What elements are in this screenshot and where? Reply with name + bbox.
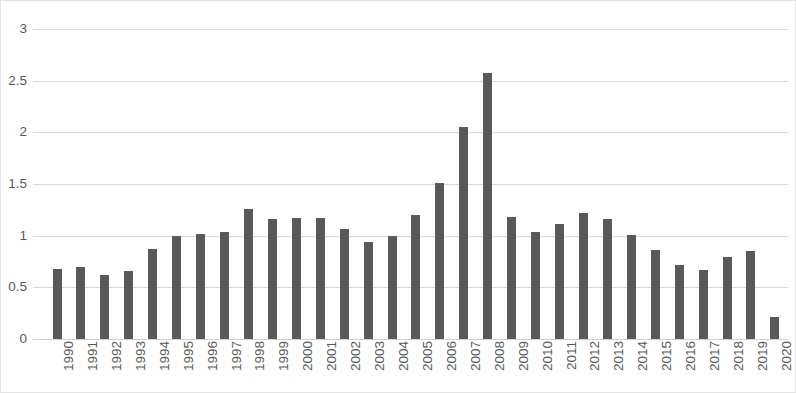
x-tick-label-2007: 2007: [469, 341, 483, 371]
bar-2013: [603, 219, 612, 339]
bar-2006: [435, 183, 444, 339]
x-tick-label-1991: 1991: [86, 341, 100, 371]
bar-2015: [651, 250, 660, 339]
x-tick-label-2016: 2016: [684, 341, 698, 371]
x-tick-label-1997: 1997: [230, 341, 244, 371]
bar-2008: [483, 73, 492, 339]
y-tick-label-0.5: 0.5: [8, 281, 27, 295]
x-tick-label-2001: 2001: [325, 341, 339, 371]
gridline-0: [33, 339, 788, 340]
bar-1992: [100, 275, 109, 339]
x-tick-label-2009: 2009: [517, 341, 531, 371]
bar-2018: [723, 257, 732, 339]
x-tick-label-2005: 2005: [421, 341, 435, 371]
bar-2016: [675, 265, 684, 339]
bar-1998: [244, 209, 253, 339]
x-tick-label-2011: 2011: [565, 341, 579, 370]
x-tick-label-2017: 2017: [708, 341, 722, 371]
bar-2005: [411, 215, 420, 339]
bar-2017: [699, 270, 708, 339]
y-tick-label-1: 1: [19, 229, 27, 243]
bar-1999: [268, 219, 277, 339]
bar-2001: [316, 218, 325, 339]
bar-2019: [746, 251, 755, 339]
bar-2014: [627, 235, 636, 339]
y-axis: 00.511.522.53: [1, 29, 27, 339]
x-tick-label-2012: 2012: [588, 341, 602, 371]
x-tick-label-1994: 1994: [158, 341, 172, 371]
bar-2020: [770, 317, 779, 339]
bar-chart-figure: 00.511.522.53 19901991199219931994199519…: [0, 0, 796, 393]
bar-1996: [196, 234, 205, 339]
x-tick-label-2003: 2003: [373, 341, 387, 371]
bar-series: [33, 29, 788, 339]
bar-2002: [340, 229, 349, 339]
x-tick-label-1995: 1995: [182, 341, 196, 371]
bar-2007: [459, 127, 468, 339]
bar-2011: [555, 224, 564, 339]
x-tick-label-1998: 1998: [253, 341, 267, 371]
y-tick-label-2.5: 2.5: [8, 74, 27, 88]
plot-area: [33, 29, 788, 339]
x-tick-label-2020: 2020: [780, 341, 794, 371]
x-tick-label-2015: 2015: [660, 341, 674, 371]
bar-1995: [172, 236, 181, 339]
x-tick-label-2013: 2013: [612, 341, 626, 371]
x-tick-label-2014: 2014: [636, 341, 650, 371]
y-tick-label-1.5: 1.5: [8, 177, 27, 191]
y-tick-label-0: 0: [19, 332, 27, 346]
x-tick-label-2004: 2004: [397, 341, 411, 371]
x-tick-label-2019: 2019: [756, 341, 770, 371]
x-tick-label-1996: 1996: [206, 341, 220, 371]
bar-2000: [292, 218, 301, 339]
x-tick-label-2018: 2018: [732, 341, 746, 371]
bar-1993: [124, 271, 133, 339]
bar-2012: [579, 213, 588, 339]
x-tick-label-2006: 2006: [445, 341, 459, 371]
y-tick-label-3: 3: [19, 22, 27, 36]
x-tick-label-2002: 2002: [349, 341, 363, 371]
x-tick-label-2000: 2000: [301, 341, 315, 371]
y-tick-label-2: 2: [19, 126, 27, 140]
bar-1991: [76, 267, 85, 339]
x-tick-label-2008: 2008: [493, 341, 507, 371]
bar-1997: [220, 232, 229, 339]
bar-1994: [148, 249, 157, 339]
x-tick-label-2010: 2010: [541, 341, 555, 371]
x-tick-label-1992: 1992: [110, 341, 124, 371]
x-tick-label-1999: 1999: [277, 341, 291, 371]
x-tick-label-1990: 1990: [62, 341, 76, 371]
bar-2003: [364, 242, 373, 339]
bar-2004: [388, 236, 397, 339]
bar-1990: [53, 269, 62, 339]
bar-2010: [531, 232, 540, 339]
x-tick-label-1993: 1993: [134, 341, 148, 371]
bar-2009: [507, 217, 516, 339]
x-axis: 1990199119921993199419951996199719981999…: [33, 341, 788, 391]
